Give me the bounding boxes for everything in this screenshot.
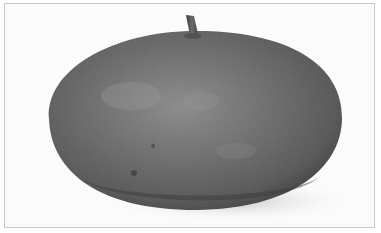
gourd-body xyxy=(49,31,342,210)
gourd-photo xyxy=(4,3,375,228)
photo-frame: Black-and-white photograph of a large, f… xyxy=(4,3,375,228)
